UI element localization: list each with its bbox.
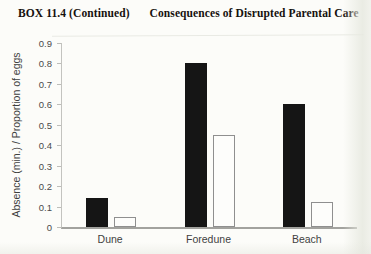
y-tick-label-0.8: 0.8 — [39, 58, 52, 69]
y-tick-label-0.2: 0.2 — [39, 181, 52, 192]
bar-dune-white-open — [114, 217, 136, 227]
bar-foredune-white-open — [213, 135, 235, 227]
x-axis: DuneForeduneBeach — [61, 233, 356, 249]
y-tick-label-0.1: 0.1 — [39, 201, 52, 212]
y-tick-label-0.5: 0.5 — [39, 119, 52, 130]
box-label: BOX 11.4 — [18, 7, 66, 19]
box-continued-label: (Continued) — [69, 7, 130, 19]
figure-header: BOX 11.4 (Continued) Consequences of Dis… — [18, 7, 365, 20]
y-tick-label-0.7: 0.7 — [39, 78, 52, 89]
x-tick-label-dune: Dune — [98, 233, 123, 245]
bar-beach-black-filled — [283, 104, 305, 227]
x-tick-label-foredune: Foredune — [186, 233, 231, 245]
y-tick-label-0.6: 0.6 — [39, 99, 52, 110]
bar-dune-black-filled — [86, 198, 108, 227]
bar-beach-white-open — [311, 202, 333, 227]
x-tick-label-beach: Beach — [292, 233, 322, 245]
scan-artifact-line — [52, 34, 364, 36]
plot-area — [61, 43, 357, 229]
scanned-book-figure: BOX 11.4 (Continued) Consequences of Dis… — [0, 0, 371, 254]
y-tick-label-0.9: 0.9 — [39, 38, 52, 49]
y-tick-label-0.4: 0.4 — [39, 140, 52, 151]
bar-foredune-black-filled — [185, 63, 207, 227]
figure-title: Consequences of Disrupted Parental Care — [150, 7, 359, 19]
y-axis: 00.10.20.30.40.50.60.70.80.9 — [0, 43, 61, 227]
y-tick-label-0: 0 — [47, 222, 52, 233]
y-tick-label-0.3: 0.3 — [39, 160, 52, 171]
